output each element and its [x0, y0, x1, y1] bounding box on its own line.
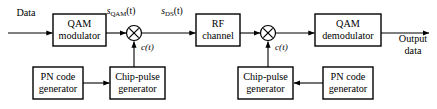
carrier-label-tx: c(t) [141, 42, 154, 52]
s-qam-arg: (t) [126, 5, 135, 17]
s-ds-arg: (t) [174, 5, 183, 17]
rf-channel-label-line2: channel [202, 30, 234, 41]
block-chip-pulse-generator-tx[interactable]: Chip-pulse generator [110, 67, 165, 99]
carrier-label-rx: c(t) [275, 42, 288, 52]
svg-text:c(t): c(t) [275, 42, 288, 52]
rf-channel-label-line1: RF [212, 18, 225, 29]
input-data-label: Data [16, 7, 36, 18]
c-t-tx-arg: (t) [145, 42, 154, 52]
block-pn-code-generator-tx[interactable]: PN code generator [33, 67, 83, 99]
signal-label-s-qam: sQAM(t) [107, 5, 136, 17]
svg-text:sDS(t): sDS(t) [161, 5, 183, 17]
qam-demodulator-label-line2: demodulator [322, 30, 374, 41]
svg-text:sQAM(t): sQAM(t) [107, 5, 136, 17]
chip-pulse-generator-rx-label-line2: generator [246, 83, 285, 94]
chip-pulse-generator-rx-label-line1: Chip-pulse [243, 71, 288, 82]
s-ds-subscript: DS [165, 10, 174, 17]
diagram-canvas: QAM modulator RF channel QAM demodulator… [0, 0, 437, 109]
c-t-rx-arg: (t) [279, 42, 288, 52]
block-chip-pulse-generator-rx[interactable]: Chip-pulse generator [238, 67, 293, 99]
svg-text:c(t): c(t) [141, 42, 154, 52]
pn-code-generator-rx-label-line1: PN code [331, 71, 366, 82]
pn-code-generator-tx-label-line1: PN code [41, 71, 76, 82]
chip-pulse-generator-tx-label-line1: Chip-pulse [115, 71, 160, 82]
s-qam-subscript: QAM [110, 10, 126, 17]
multiplier-rx[interactable] [261, 26, 276, 41]
signal-label-s-ds: sDS(t) [161, 5, 183, 17]
block-rf-channel[interactable]: RF channel [196, 14, 240, 46]
pn-code-generator-rx-label-line2: generator [329, 83, 368, 94]
block-qam-modulator[interactable]: QAM modulator [53, 14, 106, 46]
multiplier-tx[interactable] [127, 26, 142, 41]
block-qam-demodulator[interactable]: QAM demodulator [315, 14, 381, 46]
block-pn-code-generator-rx[interactable]: PN code generator [323, 67, 373, 99]
qam-demodulator-label-line1: QAM [336, 18, 360, 29]
pn-code-generator-tx-label-line2: generator [39, 83, 78, 94]
qam-modulator-label-line2: modulator [59, 30, 101, 41]
qam-modulator-label-line1: QAM [68, 18, 92, 29]
chip-pulse-generator-tx-label-line2: generator [118, 83, 157, 94]
block-diagram: QAM modulator RF channel QAM demodulator… [0, 0, 437, 109]
output-data-label-line2: data [405, 45, 422, 56]
output-data-label-line1: Output [399, 33, 427, 44]
